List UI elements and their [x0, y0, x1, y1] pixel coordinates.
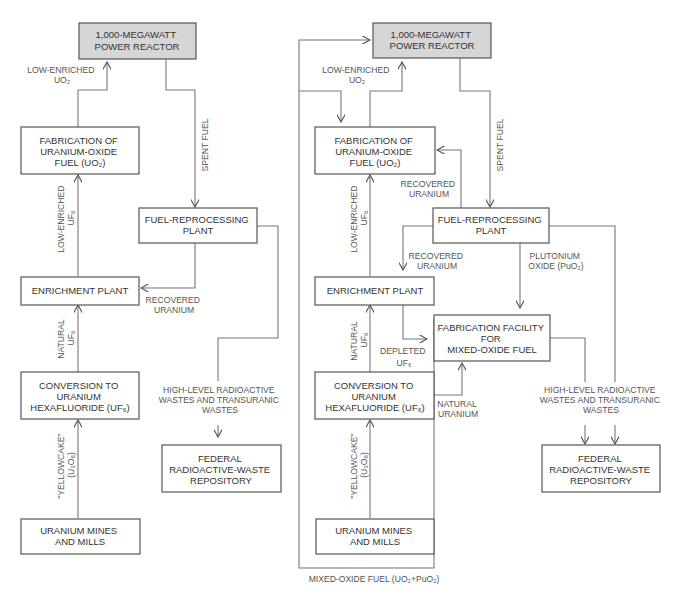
edge-wastes-line — [218, 226, 278, 381]
node-power-reactor-label: 1,000-MEGAWATT POWER REACTOR — [95, 29, 180, 52]
label-spent-fuel: SPENT FUEL — [200, 118, 210, 171]
fuel-cycle-diagram: 1,000-MEGAWATT POWER REACTOR FABRICATION… — [0, 0, 680, 593]
label-spent-fuel: SPENT FUEL — [495, 118, 505, 171]
edge-reprocessing-wastes-line — [549, 226, 615, 382]
edge-mox-wastes-line — [550, 338, 585, 382]
label-natural-uf6: NATURAL UF₆ — [56, 317, 76, 359]
label-plutonium-oxide: PLUTONIUM OXIDE (PuO₂) — [528, 251, 584, 271]
edge-recovered-uranium — [141, 243, 195, 288]
label-high-level-wastes: HIGH-LEVEL RADIOACTIVE WASTES AND TRANSU… — [159, 385, 282, 415]
edge-natural-uranium — [434, 363, 462, 395]
label-natural-uranium: NATURAL URANIUM — [437, 399, 479, 419]
label-depleted-uf6: DEPLETED UF₆ — [380, 346, 428, 368]
edge-depleted-uf6 — [403, 305, 427, 339]
label-mixed-oxide-fuel: MIXED-OXIDE FUEL (UO₂+PuO₂) — [309, 574, 440, 584]
label-yellowcake: "YELLOWCAKE" (U₃O₈) — [349, 431, 369, 499]
label-recovered-uranium: RECOVERED URANIUM — [146, 295, 203, 315]
label-natural-uf6: NATURAL UF₆ — [349, 319, 369, 361]
label-low-enriched-uf6: LOW-ENRICHED UF₆ — [349, 183, 369, 253]
node-enrichment-plant-label: ENRICHMENT PLANT — [327, 285, 424, 296]
right-diagram-recycle-cycle: 1,000-MEGAWATT POWER REACTOR FABRICATION… — [299, 23, 662, 584]
left-diagram-once-through-cycle: 1,000-MEGAWATT POWER REACTOR FABRICATION… — [21, 23, 281, 554]
label-high-level-wastes: HIGH-LEVEL RADIOACTIVE WASTES AND TRANSU… — [540, 385, 663, 415]
node-power-reactor-label: 1,000-MEGAWATT POWER REACTOR — [390, 29, 475, 51]
edge-spent-fuel — [166, 57, 195, 207]
label-low-enriched-uo2: LOW-ENRICHED UO₂ — [322, 65, 392, 85]
edge-spent-fuel — [460, 57, 490, 207]
label-recovered-uranium-top: RECOVERED URANIUM — [401, 179, 458, 199]
label-recovered-uranium-mid: RECOVERED URANIUM — [409, 251, 466, 271]
edge-mox-to-fabrication — [299, 91, 341, 122]
label-low-enriched-uo2: LOW-ENRICHED UO₂ — [27, 65, 97, 85]
label-yellowcake: "YELLOWCAKE" (U₃O₈) — [56, 431, 76, 499]
label-low-enriched-uf6: LOW-ENRICHED UF₆ — [56, 183, 76, 253]
node-enrichment-plant-label: ENRICHMENT PLANT — [32, 285, 129, 296]
